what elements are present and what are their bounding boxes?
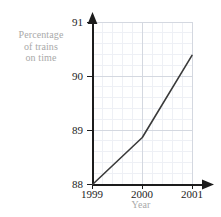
major-gridlines-vertical (143, 22, 193, 184)
y-tick-label-90: 90 (61, 71, 83, 82)
y-axis-title: Percentageof trainson time (4, 29, 78, 64)
y-tick-label-91: 91 (61, 17, 83, 28)
x-tick-label-1999: 1999 (72, 189, 112, 200)
chart-screenshot: Percentageof trainson time Year 91 90 89… (0, 0, 221, 217)
y-axis-title-line-1: Percentage (19, 29, 64, 40)
x-tick-label-2001: 2001 (172, 189, 212, 200)
y-axis-title-line-2: of trains (24, 41, 58, 52)
x-axis-title: Year (96, 199, 186, 211)
x-tick-label-2000: 2000 (122, 189, 162, 200)
y-tick-label-89: 89 (61, 125, 83, 136)
y-axis-title-line-3: on time (26, 52, 57, 63)
y-axis (88, 12, 98, 185)
y-axis-ticks (87, 23, 92, 185)
